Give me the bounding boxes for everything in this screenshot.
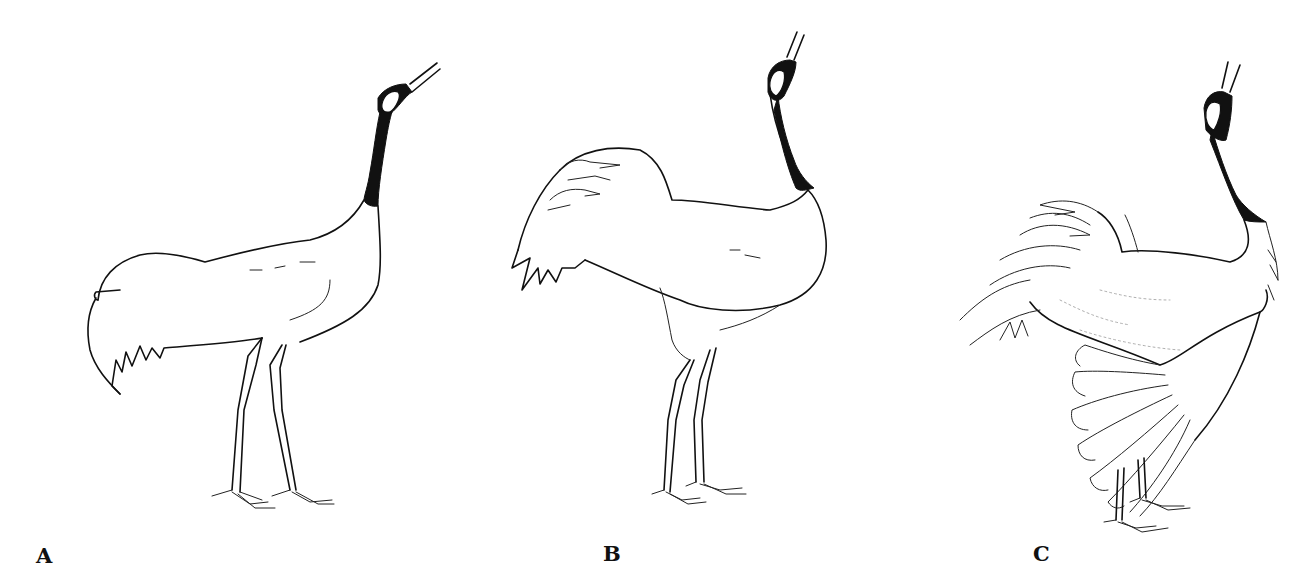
crane-a-drawing [88,63,440,508]
panel-label-b: B [603,543,621,564]
crane-figure: A B C [0,0,1315,586]
crane-illustrations [0,0,1315,586]
crane-c-drawing [960,62,1278,532]
panel-label-a: A [36,545,52,566]
panel-label-c: C [1033,543,1050,564]
crane-b-drawing [512,32,826,504]
